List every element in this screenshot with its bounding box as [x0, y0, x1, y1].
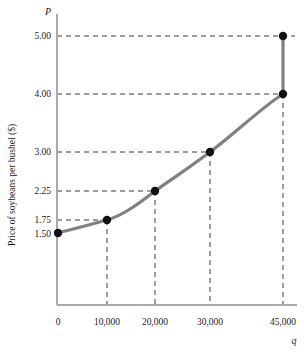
y-tick-label-3.00: 3.00	[34, 147, 51, 157]
supply-curve-chart: 5.00 4.00 3.00 2.25 1.75 1.50 0 10,000 2…	[0, 0, 304, 354]
x-tick-labels: 0 10,000 20,000 30,000 45,000	[56, 317, 297, 327]
x-axis-symbol-q: q	[292, 335, 297, 346]
vertical-gridlines	[107, 94, 283, 305]
data-point-10000-1.75	[103, 216, 111, 224]
y-tick-label-2.25: 2.25	[34, 186, 51, 196]
y-tick-label-1.75: 1.75	[34, 215, 51, 225]
chart-canvas: 5.00 4.00 3.00 2.25 1.75 1.50 0 10,000 2…	[0, 0, 304, 354]
data-point-45000-5.00	[279, 32, 287, 40]
supply-curve-path-group	[57, 36, 283, 233]
supply-curve-path	[57, 94, 283, 233]
y-tick-label-4.00: 4.00	[34, 89, 51, 99]
x-tick-label-20000: 20,000	[142, 317, 168, 327]
x-tick-label-0: 0	[56, 317, 61, 327]
y-tick-labels: 5.00 4.00 3.00 2.25 1.75 1.50	[34, 31, 51, 239]
axis-lines	[57, 14, 297, 305]
x-tick-label-10000: 10,000	[94, 317, 120, 327]
data-point-markers	[54, 32, 287, 237]
y-axis-symbol-P: P	[44, 6, 51, 17]
x-tick-label-45000: 45,000	[270, 317, 296, 327]
horizontal-gridlines	[57, 36, 295, 220]
data-point-0-1.50	[54, 229, 62, 237]
data-point-30000-3.00	[206, 148, 214, 156]
y-tick-label-1.50: 1.50	[34, 229, 51, 239]
data-point-45000-4.00	[279, 90, 287, 98]
x-tick-label-30000: 30,000	[197, 317, 223, 327]
data-point-20000-2.25	[151, 187, 159, 195]
y-axis-title: Price of soybeans per bushel ($)	[7, 124, 18, 246]
y-tick-label-5.00: 5.00	[34, 31, 51, 41]
